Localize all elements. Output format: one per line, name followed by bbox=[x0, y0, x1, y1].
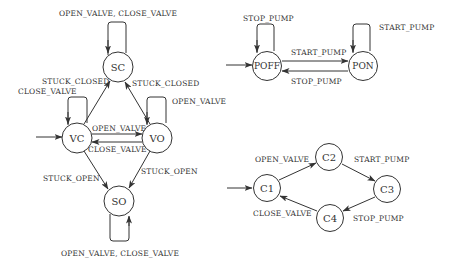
state-pon-label: PON bbox=[352, 61, 373, 71]
state-vo: VO bbox=[142, 123, 172, 153]
automata-diagram: OPEN_VALVE, CLOSE_VALVE CLOSE_VALVE OPEN… bbox=[0, 0, 449, 272]
label-vc-loop: CLOSE_VALVE bbox=[18, 87, 77, 96]
label-c4-c1: CLOSE_VALVE bbox=[253, 209, 312, 218]
state-vc-label: VC bbox=[69, 133, 85, 144]
state-c2-label: C2 bbox=[322, 152, 336, 163]
label-c2-c3: START_PUMP bbox=[354, 155, 409, 164]
label-vo-loop: OPEN_VALVE bbox=[172, 97, 226, 106]
state-vc: VC bbox=[62, 123, 92, 153]
state-c2: C2 bbox=[316, 144, 343, 171]
state-poff-label: POFF bbox=[254, 61, 280, 71]
label-c3-c4: STOP_PUMP bbox=[353, 214, 404, 223]
state-c4: C4 bbox=[317, 205, 344, 232]
label-vc-so: STUCK_OPEN bbox=[43, 174, 100, 183]
state-c4-label: C4 bbox=[323, 213, 337, 224]
label-sc-loop: OPEN_VALVE, CLOSE_VALVE bbox=[59, 9, 177, 18]
label-c1-c2: OPEN_VALVE bbox=[255, 155, 309, 164]
label-vo-vc: CLOSE_VALVE bbox=[88, 145, 147, 154]
state-so-label: SO bbox=[111, 196, 126, 207]
state-vo-label: VO bbox=[148, 133, 164, 144]
label-vo-so: STUCK_OPEN bbox=[141, 167, 198, 176]
edge-vo-loop bbox=[147, 97, 166, 125]
state-c3: C3 bbox=[374, 176, 401, 203]
state-sc: SC bbox=[103, 52, 133, 82]
state-c1: C1 bbox=[254, 175, 281, 202]
state-poff: POFF bbox=[253, 52, 282, 81]
edge-pon-loop bbox=[353, 24, 370, 53]
controller-automaton: OPEN_VALVE START_PUMP STOP_PUMP CLOSE_VA… bbox=[227, 144, 409, 232]
label-pon-poff: STOP_PUMP bbox=[291, 77, 342, 86]
label-poff-loop: STOP_PUMP bbox=[243, 14, 294, 23]
edge-sc-loop bbox=[108, 22, 126, 55]
edge-vc-so bbox=[84, 151, 108, 189]
state-so: SO bbox=[104, 186, 134, 216]
label-vc-vo: OPEN_VALVE bbox=[92, 124, 146, 133]
edge-so-loop bbox=[110, 214, 129, 241]
state-sc-label: SC bbox=[111, 62, 126, 73]
label-so-loop: OPEN_VALVE, CLOSE_VALVE bbox=[61, 249, 179, 258]
edge-c2-c3 bbox=[342, 164, 375, 181]
state-c3-label: C3 bbox=[380, 184, 394, 195]
edge-vc-loop bbox=[68, 97, 87, 125]
edge-vc-sc bbox=[84, 81, 110, 124]
edge-vo-sc bbox=[125, 82, 150, 124]
pump-automaton: STOP_PUMP START_PUMP START_PUMP STOP_PUM… bbox=[226, 14, 434, 86]
edge-c3-c4 bbox=[343, 197, 375, 211]
label-pon-loop: START_PUMP bbox=[379, 23, 434, 32]
state-c1-label: C1 bbox=[260, 183, 274, 194]
valve-automaton: OPEN_VALVE, CLOSE_VALVE CLOSE_VALVE OPEN… bbox=[18, 9, 226, 258]
label-poff-pon: START_PUMP bbox=[291, 48, 346, 57]
label-vc-sc: STUCK_CLOSED bbox=[42, 77, 109, 86]
edge-poff-loop bbox=[257, 24, 274, 53]
state-pon: PON bbox=[349, 52, 378, 81]
edge-c1-c2 bbox=[279, 163, 316, 180]
label-vo-sc: STUCK_CLOSED bbox=[132, 79, 199, 88]
